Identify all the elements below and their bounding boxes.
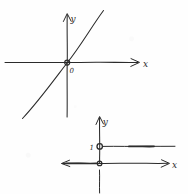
upper-plot-x-label: x <box>143 59 148 69</box>
upper-plot-identity-line <box>23 11 104 119</box>
lower-plot-x-label: x <box>172 160 177 170</box>
upper-plot-y-label: y <box>70 14 77 24</box>
lower-plot: x y 1 <box>62 117 178 194</box>
lower-plot-y-label: y <box>102 117 109 127</box>
lower-plot-y-tick-label-one: 1 <box>90 144 94 152</box>
figure-canvas: x y 0 x <box>0 0 188 194</box>
upper-plot: x y 0 <box>5 11 148 119</box>
scanned-figure-sheet: x y 0 x <box>0 0 188 194</box>
upper-plot-origin-label: 0 <box>70 67 75 75</box>
